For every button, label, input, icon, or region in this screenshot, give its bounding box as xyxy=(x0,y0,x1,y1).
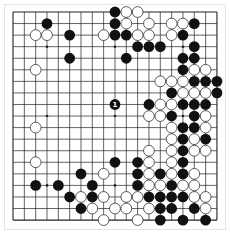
white-stone xyxy=(166,157,177,168)
black-stone xyxy=(178,64,189,75)
black-stone xyxy=(166,192,177,203)
white-stone xyxy=(121,192,132,203)
black-stone xyxy=(212,88,223,99)
black-stone xyxy=(166,88,177,99)
white-stone xyxy=(166,18,177,29)
black-stone xyxy=(110,18,121,29)
black-stone xyxy=(87,180,98,191)
white-stone xyxy=(110,203,121,214)
star-point xyxy=(46,115,49,118)
star-point xyxy=(182,45,185,48)
white-stone xyxy=(144,203,155,214)
black-stone xyxy=(121,30,132,41)
white-stone xyxy=(76,192,87,203)
black-stone xyxy=(110,30,121,41)
black-stone xyxy=(155,203,166,214)
white-stone xyxy=(189,64,200,75)
star-point xyxy=(46,184,49,187)
white-stone xyxy=(155,76,166,87)
white-stone xyxy=(144,111,155,122)
black-stone xyxy=(178,157,189,168)
black-stone xyxy=(42,18,53,29)
white-stone xyxy=(189,145,200,156)
black-stone xyxy=(189,18,200,29)
black-stone xyxy=(189,203,200,214)
black-stone: 1 xyxy=(110,99,121,110)
black-stone xyxy=(178,192,189,203)
black-stone xyxy=(155,168,166,179)
white-stone xyxy=(144,180,155,191)
black-stone xyxy=(30,180,41,191)
white-stone xyxy=(200,145,211,156)
white-stone xyxy=(178,180,189,191)
black-stone xyxy=(178,145,189,156)
black-stone xyxy=(178,99,189,110)
white-stone xyxy=(144,18,155,29)
white-stone xyxy=(200,122,211,133)
black-stone xyxy=(64,192,75,203)
white-stone xyxy=(166,76,177,87)
white-stone xyxy=(155,99,166,110)
black-stone xyxy=(200,215,211,226)
white-stone xyxy=(166,168,177,179)
white-stone xyxy=(98,30,109,41)
black-stone xyxy=(144,192,155,203)
black-stone xyxy=(178,30,189,41)
black-stone xyxy=(189,122,200,133)
black-stone xyxy=(132,180,143,191)
white-stone xyxy=(121,203,132,214)
white-stone xyxy=(189,134,200,145)
white-stone xyxy=(189,192,200,203)
black-stone xyxy=(189,99,200,110)
star-point xyxy=(182,115,185,118)
black-stone xyxy=(189,53,200,64)
black-stone xyxy=(76,203,87,214)
black-stone xyxy=(155,41,166,52)
star-point xyxy=(114,45,117,48)
black-stone xyxy=(76,168,87,179)
black-stone xyxy=(189,111,200,122)
black-stone xyxy=(53,180,64,191)
white-stone xyxy=(155,111,166,122)
black-stone xyxy=(144,41,155,52)
white-stone xyxy=(166,30,177,41)
white-stone xyxy=(30,122,41,133)
black-stone xyxy=(110,157,121,168)
black-stone xyxy=(178,53,189,64)
white-stone xyxy=(30,30,41,41)
black-stone xyxy=(132,157,143,168)
black-stone xyxy=(64,53,75,64)
white-stone xyxy=(98,192,109,203)
white-stone xyxy=(166,99,177,110)
white-stone xyxy=(189,88,200,99)
white-stone xyxy=(30,157,41,168)
star-point xyxy=(46,45,49,48)
black-stone xyxy=(200,134,211,145)
white-stone xyxy=(200,203,211,214)
white-stone xyxy=(178,76,189,87)
star-point xyxy=(114,115,117,118)
white-stone xyxy=(200,88,211,99)
white-stone xyxy=(200,111,211,122)
white-stone xyxy=(132,30,143,41)
white-stone xyxy=(200,192,211,203)
white-stone xyxy=(155,180,166,191)
black-stone xyxy=(166,111,177,122)
white-stone xyxy=(30,64,41,75)
white-stone xyxy=(121,18,132,29)
black-stone xyxy=(200,76,211,87)
white-stone xyxy=(98,215,109,226)
white-stone xyxy=(178,88,189,99)
white-stone xyxy=(144,30,155,41)
white-stone xyxy=(166,122,177,133)
black-stone xyxy=(64,30,75,41)
black-stone xyxy=(189,76,200,87)
black-stone xyxy=(178,168,189,179)
white-stone xyxy=(87,203,98,214)
white-stone xyxy=(121,7,132,18)
black-stone xyxy=(212,76,223,87)
go-board[interactable]: 1 xyxy=(0,0,230,236)
move-number-label: 1 xyxy=(113,101,118,109)
black-stone xyxy=(166,180,177,191)
white-stone xyxy=(200,64,211,75)
